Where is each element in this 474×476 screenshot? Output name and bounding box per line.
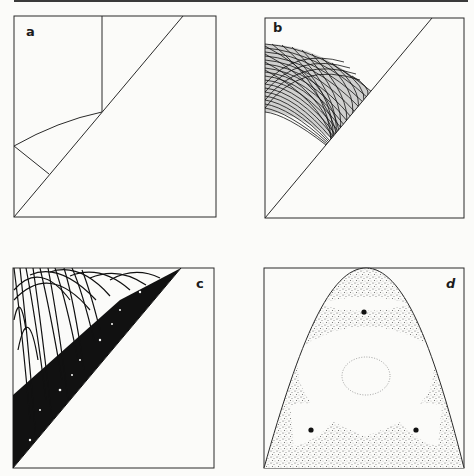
panel-c-label: c (196, 276, 204, 291)
panel-a-arc (14, 112, 102, 146)
panel-c (13, 268, 214, 468)
fixed-point-top (361, 309, 366, 314)
panel-b (265, 18, 464, 218)
panel-a-segment (14, 146, 49, 174)
panel-a-label: a (26, 24, 35, 39)
fixed-point-right (413, 427, 418, 432)
panel-a-diagonal (14, 16, 183, 217)
panel-b-label: b (273, 20, 282, 35)
panel-d-label: d (446, 276, 455, 291)
panel-a-frame (14, 16, 216, 217)
fixed-point-left (308, 427, 313, 432)
figure-canvas (0, 0, 474, 476)
panel-a (14, 16, 216, 217)
panel-d (264, 268, 464, 468)
